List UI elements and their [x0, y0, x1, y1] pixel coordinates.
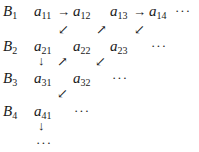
up-right-arrow-icon: ↗ — [96, 23, 107, 36]
row-label-b3: B3 — [3, 71, 17, 88]
ellipsis: ··· — [175, 4, 191, 17]
entry-a13: a13 — [110, 4, 128, 21]
row-label-b4: B4 — [3, 104, 17, 121]
entry-a12: a12 — [73, 4, 91, 21]
entry-a14: a14 — [149, 4, 167, 21]
ellipsis: ··· — [112, 71, 128, 84]
ellipsis: ··· — [74, 104, 90, 117]
entry-a23: a23 — [110, 39, 128, 56]
down-left-arrow-icon: ↙ — [134, 23, 145, 36]
down-arrow-icon: ↓ — [38, 119, 45, 132]
right-arrow-icon: → — [57, 5, 70, 18]
ellipsis: ··· — [151, 39, 167, 52]
up-right-arrow-icon: ↗ — [57, 55, 68, 68]
down-left-arrow-icon: ↙ — [95, 55, 106, 68]
entry-a32: a32 — [73, 71, 91, 88]
right-arrow-icon: → — [133, 5, 146, 18]
down-arrow-icon: ↓ — [38, 54, 45, 67]
entry-a11: a11 — [34, 4, 51, 21]
down-left-arrow-icon: ↙ — [58, 23, 69, 36]
down-left-arrow-icon: ↙ — [57, 87, 68, 100]
row-label-b2: B2 — [3, 39, 17, 56]
entry-a31: a31 — [34, 71, 52, 88]
entry-a22: a22 — [73, 39, 91, 56]
row-label-b1: B1 — [3, 4, 17, 21]
ellipsis: ··· — [36, 136, 52, 149]
